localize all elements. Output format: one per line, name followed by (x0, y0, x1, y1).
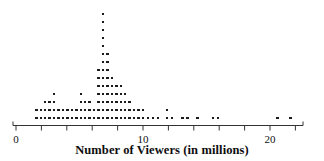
data-point (35, 109, 37, 111)
data-point (102, 93, 104, 95)
data-point (93, 117, 95, 119)
data-point (147, 117, 149, 119)
data-point (35, 117, 37, 119)
data-point (106, 109, 108, 111)
data-point (142, 117, 144, 119)
data-point (66, 109, 68, 111)
data-point (106, 101, 108, 103)
data-point (102, 109, 104, 111)
data-point (111, 85, 113, 87)
data-point (40, 117, 42, 119)
data-point (111, 109, 113, 111)
data-point (102, 13, 104, 15)
data-point (44, 117, 46, 119)
data-point (106, 53, 108, 55)
data-point (115, 101, 117, 103)
data-point (75, 109, 77, 111)
data-point (120, 117, 122, 119)
data-point (40, 109, 42, 111)
data-point (62, 109, 64, 111)
data-point (71, 109, 73, 111)
data-point (102, 101, 104, 103)
data-point (124, 101, 126, 103)
data-point (196, 117, 198, 119)
data-point (97, 93, 99, 95)
data-point (62, 117, 64, 119)
data-point (102, 61, 104, 63)
data-point (120, 101, 122, 103)
dotplot-figure: 01020 Number of Viewers (in millions) (0, 0, 324, 161)
data-point (217, 117, 219, 119)
data-point (133, 109, 135, 111)
data-point (137, 117, 139, 119)
data-point (115, 117, 117, 119)
data-point (128, 109, 130, 111)
data-point (48, 117, 50, 119)
data-point (137, 109, 139, 111)
data-point (124, 93, 126, 95)
data-point (57, 117, 59, 119)
data-point (97, 101, 99, 103)
data-point (111, 101, 113, 103)
data-point (115, 85, 117, 87)
data-point (106, 117, 108, 119)
data-point (106, 61, 108, 63)
data-point (97, 69, 99, 71)
data-point (212, 117, 214, 119)
data-point (102, 77, 104, 79)
data-point (128, 101, 130, 103)
data-point (80, 93, 82, 95)
data-point (124, 117, 126, 119)
data-point (111, 93, 113, 95)
data-point (88, 117, 90, 119)
data-point (93, 109, 95, 111)
data-point (88, 101, 90, 103)
data-point (88, 109, 90, 111)
data-point (48, 109, 50, 111)
data-point (124, 109, 126, 111)
data-point (44, 101, 46, 103)
data-point (75, 117, 77, 119)
data-point (97, 117, 99, 119)
data-point (106, 77, 108, 79)
data-point (102, 53, 104, 55)
data-point (57, 109, 59, 111)
data-point (157, 117, 159, 119)
data-point (166, 109, 168, 111)
x-axis-label: Number of Viewers (in millions) (0, 143, 324, 158)
data-point (84, 109, 86, 111)
data-point (84, 117, 86, 119)
data-point (102, 117, 104, 119)
plot-area (0, 0, 324, 130)
data-point (142, 109, 144, 111)
data-point (181, 117, 183, 119)
data-point (102, 21, 104, 23)
data-point (102, 45, 104, 47)
data-point (106, 69, 108, 71)
data-point (106, 93, 108, 95)
data-point (53, 93, 55, 95)
data-point (102, 29, 104, 31)
data-point (80, 101, 82, 103)
data-point (289, 117, 291, 119)
data-point (133, 117, 135, 119)
data-point (80, 109, 82, 111)
data-point (102, 37, 104, 39)
data-point (186, 117, 188, 119)
data-point (102, 85, 104, 87)
data-point (53, 117, 55, 119)
data-point (166, 117, 168, 119)
data-point (80, 117, 82, 119)
data-point (120, 85, 122, 87)
data-point (71, 117, 73, 119)
data-point (276, 117, 278, 119)
data-point (106, 85, 108, 87)
data-point (115, 93, 117, 95)
data-point (97, 109, 99, 111)
data-point (120, 93, 122, 95)
data-point (53, 109, 55, 111)
data-point (111, 117, 113, 119)
data-point (152, 117, 154, 119)
data-point (97, 77, 99, 79)
data-point (102, 69, 104, 71)
